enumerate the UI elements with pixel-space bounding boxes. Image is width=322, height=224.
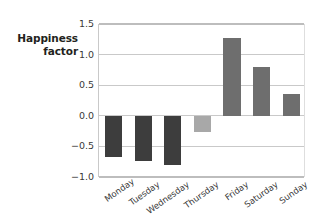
x-axis-tick-labels: MondayTuesdayWednesdayThursdayFridaySatu… [98, 177, 305, 224]
bar [164, 116, 181, 166]
y-tick-label: −1.0 [68, 172, 94, 182]
y-tick-label: 0.5 [68, 80, 94, 90]
bar-chart: Happiness factor 1.51.00.50.0−0.5−1.0 Mo… [0, 0, 322, 224]
bar [253, 67, 270, 115]
y-axis-tick-labels: 1.51.00.50.0−0.5−1.0 [66, 24, 94, 177]
bar [105, 116, 122, 157]
bar [283, 94, 300, 116]
plot-area [98, 24, 305, 177]
bar [135, 116, 152, 161]
bars-group [99, 24, 304, 177]
y-tick-label: 1.5 [68, 19, 94, 29]
bar [194, 116, 211, 133]
y-tick-label: 1.0 [68, 50, 94, 60]
bar [223, 38, 240, 116]
y-tick-label: −0.5 [68, 142, 94, 152]
y-tick-label: 0.0 [68, 111, 94, 121]
